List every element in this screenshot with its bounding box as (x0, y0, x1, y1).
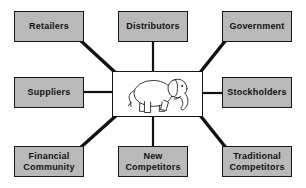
elephant-icon (116, 73, 200, 115)
connector-center-government (198, 40, 226, 75)
stakeholder-diagram: Retailers Distributors Government Suppli… (0, 0, 306, 188)
node-distributors: Distributors (118, 11, 188, 42)
node-stockholders-label: Stockholders (227, 87, 286, 98)
node-retailers: Retailers (14, 11, 84, 42)
connector-center-retailers (80, 40, 118, 75)
node-traditional-competitors: Traditional Competitors (222, 146, 292, 177)
node-distributors-label: Distributors (126, 21, 179, 32)
node-financial-community: Financial Community (14, 146, 84, 177)
node-traditional-competitors-label: Traditional Competitors (229, 151, 284, 172)
node-financial-community-label: Financial Community (23, 151, 74, 172)
node-government-label: Government (229, 21, 284, 32)
node-suppliers: Suppliers (14, 77, 84, 108)
node-new-competitors: New Competitors (118, 146, 188, 177)
node-stockholders: Stockholders (222, 77, 292, 108)
connector-center-financial (80, 114, 118, 148)
node-new-competitors-label: New Competitors (125, 151, 180, 172)
connector-center-tradcomp (199, 114, 227, 149)
node-suppliers-label: Suppliers (28, 87, 71, 98)
center-node-company (112, 71, 203, 117)
node-retailers-label: Retailers (29, 21, 69, 32)
node-government: Government (222, 11, 292, 42)
